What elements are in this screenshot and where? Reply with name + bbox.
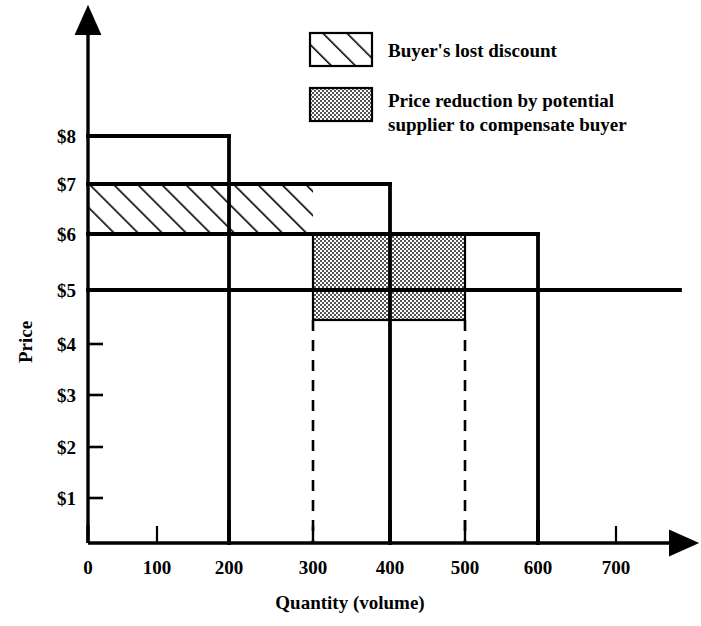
x-tick-label-300: 300 bbox=[299, 557, 328, 578]
legend-label-price-reduction-line1: Price reduction by potential bbox=[388, 90, 614, 111]
legend-label-lost-discount: Buyer's lost discount bbox=[388, 40, 558, 61]
y-tick-label-3: $3 bbox=[57, 385, 76, 406]
y-axis-title: Price bbox=[15, 321, 36, 363]
y-tick-label-2: $2 bbox=[57, 437, 76, 458]
y-tick-label-6: $6 bbox=[57, 224, 76, 245]
price-quantity-step-chart: Buyer's lost discount Price reduction by… bbox=[0, 0, 701, 626]
region-buyers-lost-discount bbox=[88, 184, 313, 234]
x-tick-label-100: 100 bbox=[143, 557, 172, 578]
legend-label-price-reduction-line2: supplier to compensate buyer bbox=[388, 114, 627, 135]
legend-swatch-hatch bbox=[310, 33, 372, 66]
x-tick-label-700: 700 bbox=[602, 557, 631, 578]
x-axis-title: Quantity (volume) bbox=[275, 592, 424, 614]
y-tick-label-1: $1 bbox=[57, 488, 76, 509]
x-tick-label-0: 0 bbox=[83, 557, 93, 578]
y-tick-label-4: $4 bbox=[57, 334, 77, 355]
chart-svg: Buyer's lost discount Price reduction by… bbox=[0, 0, 701, 626]
y-tick-label-8: $8 bbox=[57, 126, 76, 147]
x-tick-label-500: 500 bbox=[451, 557, 480, 578]
x-tick-label-600: 600 bbox=[524, 557, 553, 578]
x-tick-label-400: 400 bbox=[376, 557, 405, 578]
x-tick-label-200: 200 bbox=[215, 557, 244, 578]
y-tick-label-7: $7 bbox=[57, 174, 77, 195]
legend-swatch-dotted bbox=[310, 88, 372, 121]
y-tick-label-5: $5 bbox=[57, 280, 76, 301]
